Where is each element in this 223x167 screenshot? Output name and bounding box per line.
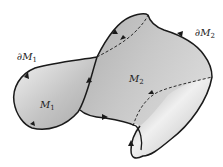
label-subscript: 2 bbox=[139, 78, 143, 86]
label-subscript: 1 bbox=[50, 104, 54, 112]
label-boundary-m1: ∂M1 bbox=[17, 52, 37, 64]
label-subscript: 1 bbox=[32, 56, 36, 64]
label-subscript: 2 bbox=[210, 32, 214, 40]
label-text: ∂M bbox=[195, 27, 210, 38]
label-surface-m2: M2 bbox=[129, 74, 144, 86]
label-text: ∂M bbox=[17, 51, 32, 62]
manifold-diagram bbox=[0, 0, 223, 167]
label-text: M bbox=[129, 73, 139, 84]
surface-m1 bbox=[14, 57, 97, 129]
label-surface-m1: M1 bbox=[40, 100, 55, 112]
label-boundary-m2: ∂M2 bbox=[195, 28, 215, 40]
label-text: M bbox=[40, 99, 50, 110]
